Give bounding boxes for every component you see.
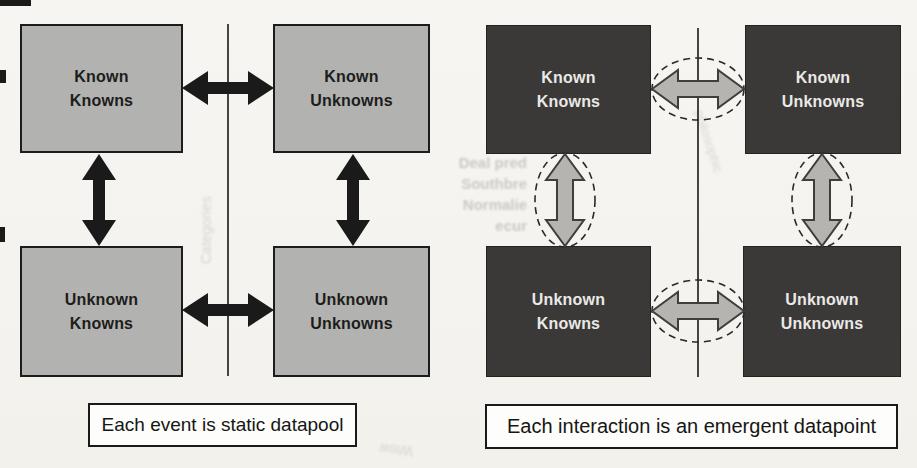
right-box-known-unknowns: Known Unknowns xyxy=(745,25,901,154)
caption-text: Each interaction is an emergent datapoin… xyxy=(507,415,876,438)
double-arrow-icon xyxy=(335,154,371,246)
box-label-line: Knowns xyxy=(537,312,600,335)
interaction-arrow-ellipse-icon xyxy=(788,150,856,250)
bleedthrough-line: Deal pred xyxy=(425,152,527,173)
double-arrow-icon xyxy=(182,292,274,328)
double-arrow-icon xyxy=(182,70,274,106)
box-label-line: Unknown xyxy=(65,288,138,311)
box-label-line: Unknown xyxy=(532,288,605,311)
left-box-unknown-knowns: Unknown Knowns xyxy=(20,246,183,377)
box-label-line: Unknowns xyxy=(310,89,393,112)
bleedthrough-line: Normalie xyxy=(425,194,527,215)
box-label-line: Known xyxy=(74,65,128,88)
left-diagram-caption: Each event is static datapool xyxy=(88,403,357,447)
scan-edge-mark xyxy=(0,227,5,242)
box-label-line: Unknowns xyxy=(782,90,865,113)
bleedthrough-diagonal-text: philosophic xyxy=(692,108,746,236)
left-box-known-unknowns: Known Unknowns xyxy=(273,24,430,153)
box-label-line: Unknown xyxy=(315,288,388,311)
bleedthrough-line: ecur xyxy=(425,215,527,236)
box-label-line: Known xyxy=(796,66,850,89)
box-label-line: Knowns xyxy=(537,90,600,113)
box-label-line: Knowns xyxy=(70,312,133,335)
left-box-known-knowns: Known Knowns xyxy=(20,24,183,153)
right-diagram-caption: Each interaction is an emergent datapoin… xyxy=(485,404,898,449)
scan-edge-mark xyxy=(0,70,6,83)
scanned-figure-page: Deal pred Southbre Normalie ecur Categor… xyxy=(0,0,917,468)
right-box-known-knowns: Known Knowns xyxy=(486,25,651,154)
right-box-unknown-unknowns: Unknown Unknowns xyxy=(743,246,901,377)
bleedthrough-vertical-text: Categories xyxy=(198,144,214,264)
box-label-line: Unknowns xyxy=(781,312,864,335)
right-box-unknown-knowns: Unknown Knowns xyxy=(486,246,651,377)
interaction-arrow-ellipse-icon xyxy=(531,150,599,250)
left-box-unknown-unknowns: Unknown Unknowns xyxy=(273,246,430,377)
caption-text: Each event is static datapool xyxy=(102,414,344,436)
box-label-line: Knowns xyxy=(70,89,133,112)
double-arrow-icon xyxy=(81,154,117,246)
box-label-line: Known xyxy=(324,65,378,88)
bleedthrough-text-block: Deal pred Southbre Normalie ecur xyxy=(425,152,527,236)
interaction-arrow-ellipse-icon xyxy=(648,277,748,345)
bleedthrough-line: Southbre xyxy=(425,173,527,194)
scan-edge-mark xyxy=(0,0,31,6)
box-label-line: Unknowns xyxy=(310,312,393,335)
box-label-line: Unknown xyxy=(785,288,858,311)
interaction-arrow-ellipse-icon xyxy=(648,55,748,123)
box-label-line: Known xyxy=(541,66,595,89)
